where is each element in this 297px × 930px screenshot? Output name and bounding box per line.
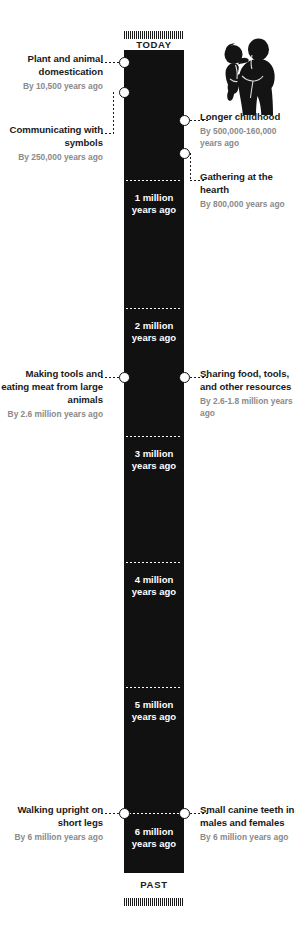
event-dot-tools[interactable] <box>119 372 130 383</box>
event-canine-teeth[interactable]: Small canine teeth in males and females … <box>200 803 295 843</box>
era-label-line2: years ago <box>124 711 184 723</box>
event-longer-childhood[interactable]: Longer childhood By 500,000-160,000 year… <box>200 110 295 149</box>
event-dot-canine-teeth[interactable] <box>179 808 190 819</box>
event-subtitle: By 800,000 years ago <box>200 198 295 210</box>
era-label-line1: 2 million <box>124 320 184 332</box>
leader-line-hearth-vertical <box>190 153 191 180</box>
event-dot-domestication[interactable] <box>119 57 130 68</box>
event-title: Sharing food, tools, and other resources <box>200 367 295 393</box>
mother-and-child-silhouette-icon <box>211 38 283 116</box>
event-dot-walking-upright[interactable] <box>119 808 130 819</box>
era-label-line2: years ago <box>124 586 184 598</box>
event-domestication[interactable]: Plant and animal domestication By 10,500… <box>0 52 103 92</box>
event-subtitle: By 6 million years ago <box>0 831 103 843</box>
event-subtitle: By 10,500 years ago <box>0 80 103 92</box>
past-label: PAST <box>104 879 204 890</box>
event-subtitle: By 500,000-160,000 years ago <box>200 125 295 149</box>
event-symbols[interactable]: Communicating with symbols By 250,000 ye… <box>0 123 103 163</box>
event-tools[interactable]: Making tools and eating meat from large … <box>0 367 103 420</box>
event-dot-hearth[interactable] <box>179 148 190 159</box>
event-title: Walking upright on short legs <box>0 803 103 829</box>
era-label-6my: 6 million years ago <box>124 826 184 849</box>
event-subtitle: By 2.6-1.8 million years ago <box>200 395 295 419</box>
era-tick-3my <box>126 436 182 437</box>
event-sharing[interactable]: Sharing food, tools, and other resources… <box>200 367 295 419</box>
bottom-hatch-marker <box>124 898 184 906</box>
event-title: Gathering at the hearth <box>200 170 295 196</box>
leader-line-symbols-vertical <box>113 92 114 133</box>
era-tick-5my <box>126 687 182 688</box>
era-tick-4my <box>126 562 182 563</box>
event-dot-longer-childhood[interactable] <box>179 115 190 126</box>
event-title: Making tools and eating meat from large … <box>0 367 103 406</box>
event-subtitle: By 6 million years ago <box>200 831 295 843</box>
event-dot-symbols[interactable] <box>119 87 130 98</box>
era-label-line1: 6 million <box>124 826 184 838</box>
era-label-2my: 2 million years ago <box>124 320 184 343</box>
era-label-line1: 4 million <box>124 574 184 586</box>
today-label: TODAY <box>104 39 204 50</box>
era-tick-2my <box>126 308 182 309</box>
event-walking-upright[interactable]: Walking upright on short legs By 6 milli… <box>0 803 103 843</box>
era-label-line2: years ago <box>124 332 184 344</box>
era-label-1my: 1 million years ago <box>124 192 184 215</box>
top-hatch-marker <box>124 31 184 39</box>
era-tick-1my <box>126 180 182 181</box>
era-label-line2: years ago <box>124 460 184 472</box>
era-label-line2: years ago <box>124 204 184 216</box>
event-title: Plant and animal domestication <box>0 52 103 78</box>
era-label-line1: 3 million <box>124 448 184 460</box>
era-label-line1: 5 million <box>124 699 184 711</box>
era-tick-6my <box>129 813 179 814</box>
era-label-line2: years ago <box>124 838 184 850</box>
era-label-3my: 3 million years ago <box>124 448 184 471</box>
era-label-5my: 5 million years ago <box>124 699 184 722</box>
event-subtitle: By 2.6 million years ago <box>0 408 103 420</box>
event-hearth[interactable]: Gathering at the hearth By 800,000 years… <box>200 170 295 210</box>
event-subtitle: By 250,000 years ago <box>0 151 103 163</box>
event-title: Longer childhood <box>200 110 295 123</box>
era-label-4my: 4 million years ago <box>124 574 184 597</box>
event-title: Small canine teeth in males and females <box>200 803 295 829</box>
event-title: Communicating with symbols <box>0 123 103 149</box>
event-dot-sharing[interactable] <box>179 372 190 383</box>
era-label-line1: 1 million <box>124 192 184 204</box>
